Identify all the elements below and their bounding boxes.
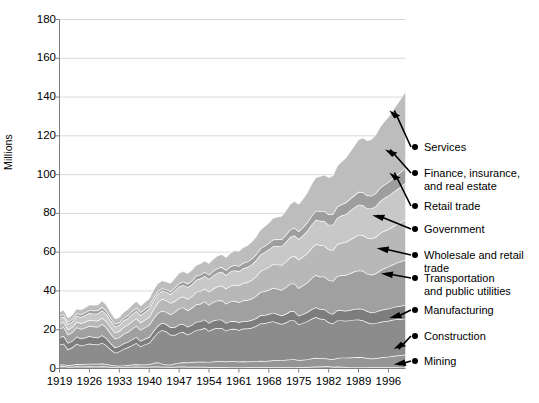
legend-label: Government xyxy=(424,223,485,236)
legend-marker-dot xyxy=(412,144,418,150)
legend-marker-dot xyxy=(412,170,418,176)
legend-label: Retail trade xyxy=(424,200,480,213)
x-tick-label: 1996 xyxy=(368,375,408,387)
stacked-bands xyxy=(60,92,406,369)
legend-label: Construction xyxy=(424,330,486,343)
legend-marker-dot xyxy=(412,358,418,364)
legend-label: Mining xyxy=(424,355,456,368)
legend-label: Transportation and public utilities xyxy=(424,272,511,298)
legend-marker-dot xyxy=(412,275,418,281)
legend-label: Manufacturing xyxy=(424,304,494,317)
legend-label: Services xyxy=(424,141,466,154)
area-chart: Millions 180160140120100806040200 191919… xyxy=(0,0,539,403)
legend-marker-dot xyxy=(412,307,418,313)
legend-marker-dot xyxy=(412,333,418,339)
legend-label: Finance, insurance, and real estate xyxy=(424,167,520,193)
legend-marker-dot xyxy=(412,226,418,232)
legend-marker-dot xyxy=(412,203,418,209)
legend-marker-dot xyxy=(412,252,418,258)
